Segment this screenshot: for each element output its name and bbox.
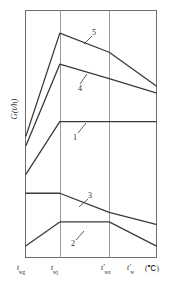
leader-line-1 <box>78 123 86 133</box>
x-tick-t-wj-sub: wj <box>53 269 58 275</box>
leader-line-4 <box>80 74 87 84</box>
curve-2 <box>26 222 156 246</box>
curve-label-2: 2 <box>71 240 75 248</box>
leader-line-5 <box>84 36 92 44</box>
leader-line-2 <box>76 231 84 240</box>
chart-figure: G(t/h) twg twj t′wz t′w (℃) 5 4 1 3 2 <box>0 0 177 297</box>
curve-label-5: 5 <box>92 29 96 37</box>
x-tick-label-t-wj: twj <box>51 264 58 274</box>
x-axis-unit-label: (℃) <box>145 264 159 273</box>
x-tick-label-t-wz: t′wz <box>101 264 111 274</box>
plot-frame <box>26 11 157 258</box>
y-axis-label: G(t/h) <box>9 79 19 139</box>
curve-5 <box>26 33 156 136</box>
x-tick-label-t-w: t′w <box>127 264 134 274</box>
x-tick-t-w-sub: w <box>130 269 134 275</box>
chart-plot-area <box>0 0 177 297</box>
curve-label-3: 3 <box>88 192 92 200</box>
curve-1 <box>26 122 156 175</box>
curve-label-4: 4 <box>78 85 82 93</box>
curve-label-1: 1 <box>73 134 77 142</box>
x-tick-t-wz-sub: wz <box>104 269 110 275</box>
x-tick-t-wg-sub: wg <box>19 269 25 275</box>
x-tick-label-t-wg: twg <box>17 264 25 274</box>
